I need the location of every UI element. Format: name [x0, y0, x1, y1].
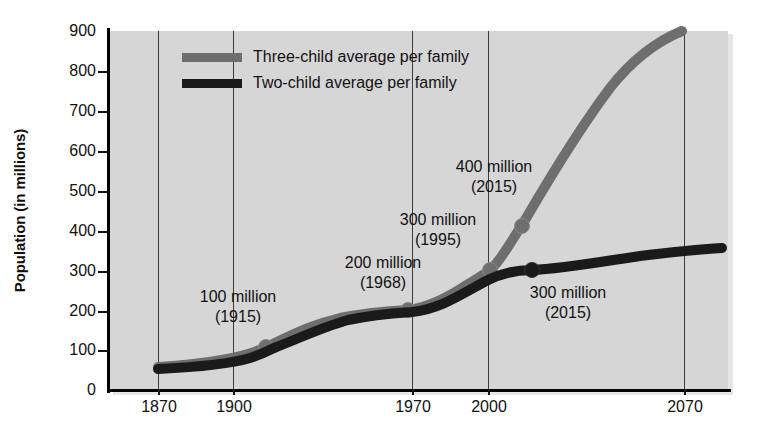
legend-swatch-three-child: [182, 53, 242, 62]
legend-item-three-child: Three-child average per family: [182, 44, 469, 70]
annotation-200-million-1968-value: 200 million: [345, 254, 421, 271]
annotation-100-million-1915-year: (1915): [184, 307, 292, 327]
legend-item-two-child: Two-child average per family: [182, 70, 469, 96]
annotation-300-million-2015-year: (2015): [512, 303, 624, 323]
data-point-2015-300m: [525, 263, 540, 278]
annotation-400-million-2015-year: (2015): [438, 177, 550, 197]
annotation-300-million-1995-value: 300 million: [400, 211, 476, 228]
annotation-300-million-1995: 300 million (1995): [384, 210, 492, 250]
population-projection-chart: Population (in millions) 900 800 700 600…: [0, 0, 765, 448]
legend-label-two-child: Two-child average per family: [253, 74, 457, 92]
annotation-400-million-2015-value: 400 million: [456, 158, 532, 175]
legend: Three-child average per family Two-child…: [182, 44, 469, 96]
data-point-2015-400m: [515, 219, 530, 234]
annotation-400-million-2015: 400 million (2015): [438, 157, 550, 197]
annotation-300-million-2015-value: 300 million: [530, 284, 606, 301]
annotation-200-million-1968: 200 million (1968): [329, 253, 437, 293]
annotation-100-million-1915-value: 100 million: [200, 288, 276, 305]
annotation-300-million-1995-year: (1995): [384, 230, 492, 250]
annotation-200-million-1968-year: (1968): [329, 273, 437, 293]
annotation-100-million-1915: 100 million (1915): [184, 287, 292, 327]
annotation-300-million-2015: 300 million (2015): [512, 283, 624, 323]
legend-label-three-child: Three-child average per family: [253, 48, 469, 66]
legend-swatch-two-child: [182, 79, 242, 88]
